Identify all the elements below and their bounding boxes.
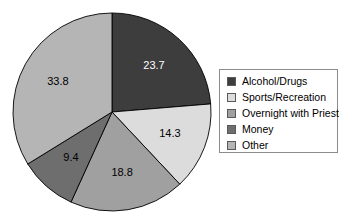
legend-item-label: Money bbox=[242, 124, 274, 135]
chart-legend: Alcohol/DrugsSports/RecreationOvernight … bbox=[219, 69, 338, 153]
legend-item[interactable]: Alcohol/Drugs bbox=[227, 74, 337, 89]
legend-color-swatch-icon bbox=[227, 109, 236, 118]
pie-slice-value-label: 9.4 bbox=[63, 151, 78, 163]
legend-color-swatch-icon bbox=[227, 125, 236, 134]
legend-item-label: Alcohol/Drugs bbox=[242, 76, 307, 87]
legend-color-swatch-icon bbox=[227, 77, 236, 86]
pie-chart-figure: 23.714.318.89.433.8 Alcohol/DrugsSports/… bbox=[0, 0, 364, 223]
legend-item-label: Other bbox=[242, 140, 268, 151]
pie-slice-value-label: 14.3 bbox=[159, 127, 180, 139]
legend-item-label: Overnight with Priest bbox=[242, 108, 339, 119]
legend-color-swatch-icon bbox=[227, 93, 236, 102]
legend-item-label: Sports/Recreation bbox=[242, 92, 326, 103]
legend-item[interactable]: Overnight with Priest bbox=[227, 106, 337, 121]
pie-slice-value-label: 33.8 bbox=[47, 75, 68, 87]
legend-color-swatch-icon bbox=[227, 141, 236, 150]
legend-item[interactable]: Other bbox=[227, 138, 337, 153]
legend-item[interactable]: Money bbox=[227, 122, 337, 137]
pie-slices-group bbox=[13, 13, 211, 211]
pie-slice-value-label: 23.7 bbox=[143, 59, 164, 71]
legend-item[interactable]: Sports/Recreation bbox=[227, 90, 337, 105]
pie-slice-value-label: 18.8 bbox=[111, 166, 132, 178]
